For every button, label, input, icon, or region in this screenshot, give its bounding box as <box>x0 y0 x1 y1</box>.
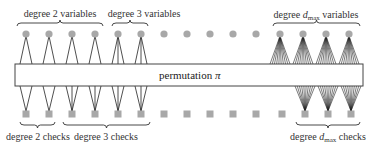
check-node-square-icon <box>279 111 286 118</box>
edge <box>112 36 118 64</box>
check-node-square-icon <box>138 111 145 118</box>
check-node-square-icon <box>325 111 332 118</box>
permutation-label: permutation π <box>159 70 220 81</box>
edge <box>49 36 55 64</box>
check-nodes <box>23 111 355 118</box>
label-text: degree 3 checks <box>74 131 138 142</box>
check-node-square-icon <box>184 111 191 118</box>
edge <box>49 86 55 111</box>
label-text: degree 3 variables <box>108 8 181 19</box>
check-node-square-icon <box>161 111 168 118</box>
edge <box>89 86 95 111</box>
edge <box>112 86 118 111</box>
variable-nodes <box>22 30 352 37</box>
label-degree-dmax-variables: degree dmax variables <box>274 10 359 22</box>
bottom-braces <box>20 122 360 128</box>
edge <box>95 36 101 64</box>
curly-brace <box>20 122 55 128</box>
edge <box>118 86 124 111</box>
edge <box>141 86 147 111</box>
permutation-label-text: permutation <box>159 69 212 81</box>
variable-node-circle-icon <box>68 30 75 37</box>
label-subscript: max <box>308 14 320 22</box>
edge <box>43 36 49 64</box>
check-node-square-icon <box>253 111 260 118</box>
variable-node-circle-icon <box>229 30 236 37</box>
edge <box>141 36 147 64</box>
variable-node-circle-icon <box>160 30 167 37</box>
label-subscript: max <box>324 136 336 144</box>
variable-node-circle-icon <box>45 30 52 37</box>
edge <box>135 86 141 111</box>
check-node-square-icon <box>230 111 237 118</box>
variable-node-circle-icon <box>345 30 352 37</box>
edge <box>43 86 49 111</box>
label-text: checks <box>336 131 366 142</box>
check-node-square-icon <box>348 111 355 118</box>
edge <box>66 36 72 64</box>
label-text: degree 2 checks <box>6 131 70 142</box>
edge <box>135 36 141 64</box>
check-node-square-icon <box>207 111 214 118</box>
variable-node-circle-icon <box>137 30 144 37</box>
variable-node-circle-icon <box>299 30 306 37</box>
edge <box>26 86 32 111</box>
check-node-square-icon <box>302 111 309 118</box>
label-degree-dmax-checks: degree dmax checks <box>290 132 366 144</box>
variable-node-circle-icon <box>91 30 98 37</box>
permutation-symbol: π <box>215 69 221 81</box>
label-text: degree 2 variables <box>24 8 97 19</box>
variable-node-circle-icon <box>276 30 283 37</box>
check-edges <box>20 86 361 111</box>
label-degree-2-checks: degree 2 checks <box>6 132 70 142</box>
edge <box>72 86 78 111</box>
edge <box>20 36 26 64</box>
label-text: variables <box>320 9 359 20</box>
curly-brace <box>112 20 148 26</box>
variable-node-circle-icon <box>252 30 259 37</box>
check-node-square-icon <box>46 111 53 118</box>
edge <box>20 86 26 111</box>
variable-node-circle-icon <box>22 30 29 37</box>
variable-node-circle-icon <box>183 30 190 37</box>
label-text: degree <box>290 131 319 142</box>
label-degree-2-variables: degree 2 variables <box>24 9 97 19</box>
edge <box>72 36 78 64</box>
label-degree-3-checks: degree 3 checks <box>74 132 138 142</box>
curly-brace <box>296 122 360 128</box>
check-node-square-icon <box>115 111 122 118</box>
check-node-square-icon <box>23 111 30 118</box>
curly-brace <box>63 122 150 128</box>
check-node-square-icon <box>92 111 99 118</box>
edge <box>89 36 95 64</box>
curly-brace <box>17 20 103 26</box>
variable-node-circle-icon <box>206 30 213 37</box>
variable-edges <box>20 36 359 64</box>
edge <box>66 86 72 111</box>
edge <box>26 36 32 64</box>
edge <box>118 36 124 64</box>
edge <box>95 86 101 111</box>
label-degree-3-variables: degree 3 variables <box>108 9 181 19</box>
label-text: degree <box>274 9 303 20</box>
check-node-square-icon <box>69 111 76 118</box>
variable-node-circle-icon <box>114 30 121 37</box>
variable-node-circle-icon <box>322 30 329 37</box>
